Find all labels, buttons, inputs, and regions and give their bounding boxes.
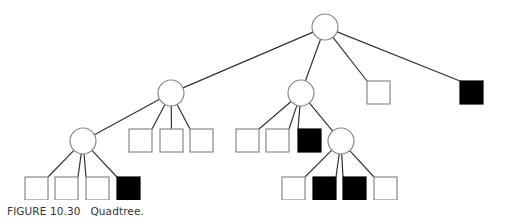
tree-edge — [84, 154, 86, 177]
tree-edge — [350, 151, 374, 177]
leaf-node-empty — [282, 177, 305, 200]
tree-edge — [152, 104, 165, 129]
leaf-node-empty — [266, 129, 289, 152]
figure-title: Quadtree. — [91, 205, 144, 217]
leaf-node-filled — [313, 177, 336, 200]
tree-edge — [333, 37, 367, 81]
leaf-node-empty — [160, 129, 183, 152]
leaf-node-empty — [367, 81, 390, 104]
tree-edge — [78, 154, 81, 177]
leaf-node-empty — [129, 129, 152, 152]
tree-edge — [259, 101, 291, 129]
tree-edge — [336, 154, 339, 177]
tree-edge — [337, 32, 460, 81]
root-node — [312, 14, 338, 40]
leaf-node-empty — [236, 129, 259, 152]
tree-edge — [342, 154, 343, 177]
tree-nodes — [25, 14, 483, 200]
tree-edge — [92, 150, 117, 177]
internal-node — [288, 80, 314, 106]
leaf-node-filled — [460, 81, 483, 104]
quadtree-diagram — [0, 0, 510, 200]
leaf-node-filled — [117, 177, 140, 200]
internal-node — [158, 80, 184, 106]
leaf-node-empty — [55, 177, 78, 200]
figure-caption: FIGURE 10.30Quadtree. — [7, 205, 144, 217]
leaf-node-filled — [343, 177, 366, 200]
internal-node — [70, 128, 96, 154]
tree-edge — [309, 103, 332, 131]
tree-edge — [183, 32, 313, 88]
leaf-node-empty — [86, 177, 109, 200]
leaf-node-empty — [190, 129, 213, 152]
tree-edge — [305, 150, 332, 177]
leaf-node-empty — [25, 177, 48, 200]
internal-node — [328, 128, 354, 154]
figure-label: FIGURE 10.30 — [7, 205, 81, 217]
tree-edge — [177, 104, 190, 129]
tree-edges — [48, 32, 460, 177]
tree-edge — [48, 150, 74, 177]
tree-edge — [289, 105, 297, 129]
tree-edge — [298, 106, 300, 129]
leaf-node-empty — [374, 177, 397, 200]
leaf-node-filled — [298, 129, 321, 152]
tree-edge — [305, 39, 320, 81]
